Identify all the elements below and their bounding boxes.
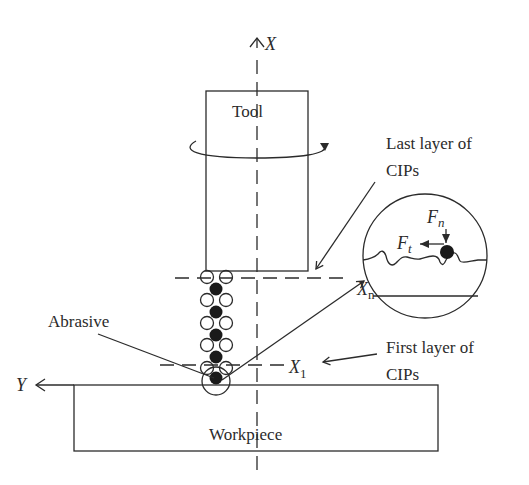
last-layer-label-line2: CIPs — [386, 161, 419, 180]
xn-label: Xn — [356, 279, 375, 302]
abrasive-particle — [440, 245, 454, 259]
last-layer-label-line1: Last layer of — [386, 134, 472, 153]
mrf-tool-diagram: X Tool Xn X1 — [0, 0, 529, 485]
abrasive-annotation: Abrasive — [48, 312, 214, 378]
x-axis: X — [250, 34, 277, 470]
y-axis: Y — [16, 375, 74, 395]
tool: Tool — [190, 91, 329, 271]
surface-profile — [363, 251, 487, 265]
tool-label: Tool — [232, 102, 263, 121]
x-axis-label: X — [264, 34, 277, 54]
fn-label: Fn — [426, 207, 445, 230]
first-layer-label-line1: First layer of — [386, 338, 474, 357]
first-layer-label-line2: CIPs — [386, 365, 419, 384]
first-layer-annotation: First layer of CIPs — [323, 338, 474, 384]
magnified-detail: Fn Ft — [363, 194, 487, 318]
ft-label: Ft — [396, 233, 412, 256]
xn-level-line: Xn — [175, 278, 375, 302]
y-axis-label: Y — [16, 375, 28, 395]
x1-label: X1 — [288, 357, 307, 381]
workpiece-label: Workpiece — [209, 425, 282, 444]
workpiece: Workpiece — [74, 385, 438, 451]
x1-level-line: X1 — [160, 357, 307, 381]
abrasive-label: Abrasive — [48, 312, 109, 331]
